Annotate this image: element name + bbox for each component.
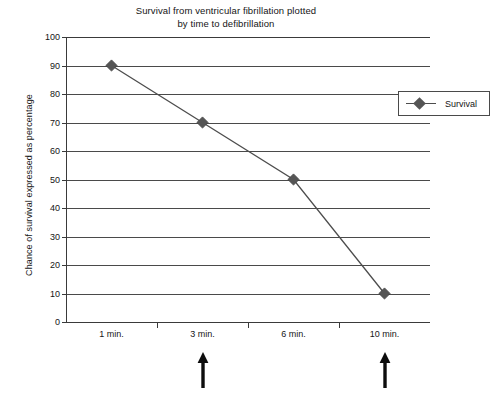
y-axis-tick-label: 30 [26, 232, 60, 242]
y-axis-tick-label: 40 [26, 203, 60, 213]
data-point-marker [106, 60, 117, 71]
x-axis-tick-label: 6 min. [248, 329, 340, 339]
legend: Survival [398, 91, 490, 116]
series-markers [106, 60, 390, 299]
y-axis-tick-label: 60 [26, 146, 60, 156]
data-point-marker [197, 117, 208, 128]
y-axis-tick-label: 0 [26, 317, 60, 327]
chart-title: Survival from ventricular fibrillation p… [0, 5, 452, 30]
y-axis-tick-label: 70 [26, 118, 60, 128]
y-axis-tick-label: 20 [26, 260, 60, 270]
x-axis-tick-label: 3 min. [157, 329, 249, 339]
y-axis-tick-label: 50 [26, 175, 60, 185]
x-axis-tick-label: 10 min. [339, 329, 431, 339]
y-axis-tick-label: 90 [26, 61, 60, 71]
series-line [112, 66, 385, 294]
legend-label-survival: Survival [445, 99, 477, 109]
diamond-marker-icon [413, 97, 426, 110]
chart-title-line-2: by time to defibrillation [0, 18, 452, 31]
y-axis-tick-label: 80 [26, 89, 60, 99]
series-survival [66, 37, 430, 322]
x-axis-tick [157, 322, 158, 328]
x-axis-tick [339, 322, 340, 328]
plot-area: 1 min.3 min.6 min.10 min. Survival [66, 37, 430, 322]
arrow-up-icon [196, 352, 210, 388]
x-axis-tick-label: 1 min. [66, 329, 158, 339]
x-axis-tick [248, 322, 249, 328]
arrow-up-icon [378, 352, 392, 388]
chart-title-line-1: Survival from ventricular fibrillation p… [0, 5, 452, 18]
y-axis-tick-label: 100 [26, 32, 60, 42]
y-axis-tick-label: 10 [26, 289, 60, 299]
legend-marker-sample [406, 97, 436, 111]
